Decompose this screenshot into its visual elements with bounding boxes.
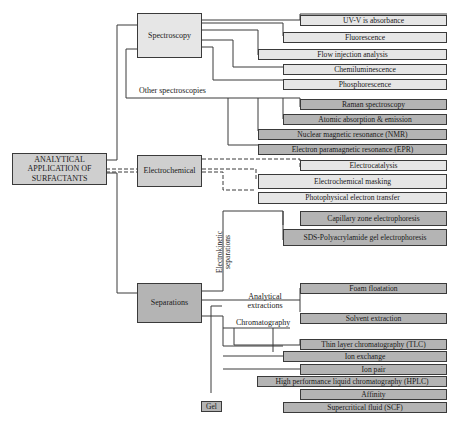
item-sds-page: SDS-Polyacrylamide gel electrophoresis	[283, 229, 447, 246]
item-ion-exchange: Ion exchange	[283, 351, 447, 362]
item-ion-pair: Ion pair	[300, 364, 447, 375]
label-electrokinetic-separations: Electrokinetic separations	[216, 216, 232, 276]
item-scf: Supercritical fluid (SCF)	[283, 402, 447, 413]
item-electrocatalysis: Electrocatalysis	[300, 160, 447, 171]
item-raman-spectroscopy: Raman spectroscopy	[300, 99, 447, 110]
category-separations: Separations	[137, 283, 202, 323]
item-fluorescence: Fluorescence	[283, 32, 447, 43]
root-node: ANALYTICAL APPLICATION OF SURFACTANTS	[12, 153, 107, 185]
item-atomic-absorption-emission: Atomic absorption & emission	[283, 114, 447, 125]
label-other-spectroscopies: Other spectroscopies	[139, 87, 206, 96]
item-phosphorescence: Phosphorescence	[283, 79, 447, 90]
category-spectroscopy: Spectroscopy	[137, 13, 202, 58]
item-flow-injection-analysis: Flow injection analysis	[258, 49, 447, 60]
item-capillary-zone-electrophoresis: Capillary zone electrophoresis	[300, 211, 447, 226]
item-epr: Electron paramagnetic resonance (EPR)	[258, 144, 447, 155]
category-electrochemical: Electrochemical	[137, 155, 202, 187]
item-photophysical-electron-transfer: Photophysical electron transfer	[258, 192, 447, 204]
label-chromatography: Chromatography	[236, 319, 290, 328]
item-tlc: Thin layer chromatography (TLC)	[300, 339, 447, 350]
root-label: ANALYTICAL APPLICATION OF SURFACTANTS	[13, 155, 106, 183]
item-hplc: High performance liquid chromatography (…	[257, 376, 447, 387]
category-gel: Gel	[201, 401, 222, 412]
item-chemiluminescence: Chemiluminescence	[283, 64, 447, 75]
item-affinity: Affinity	[300, 389, 447, 400]
item-electrochemical-masking: Electrochemical masking	[258, 174, 447, 189]
item-foam-floatation: Foam floatation	[300, 283, 447, 294]
item-uv-vis-absorbance: UV-V is absorbance	[300, 15, 447, 26]
diagram-canvas: ANALYTICAL APPLICATION OF SURFACTANTS Sp…	[0, 0, 466, 423]
item-solvent-extraction: Solvent extraction	[300, 313, 447, 324]
item-nmr: Nuclear magnetic resonance (NMR)	[258, 129, 447, 140]
label-analytical-extractions: Analytical extractions	[241, 293, 289, 311]
